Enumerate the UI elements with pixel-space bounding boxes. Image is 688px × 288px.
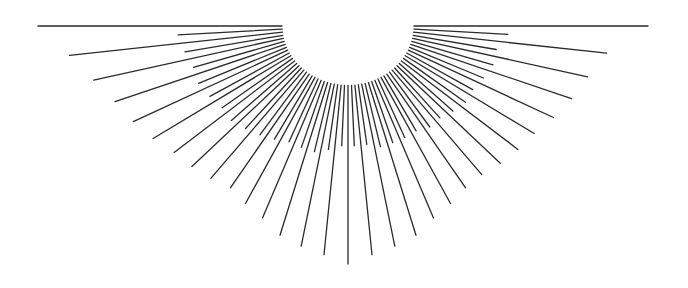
sunburst-ray	[387, 74, 466, 188]
sunburst-ray	[192, 66, 299, 167]
sunburst-ray	[246, 77, 316, 203]
sunburst-ray	[355, 85, 372, 255]
sunburst-ray	[230, 74, 309, 188]
sunburst-ray	[405, 56, 534, 134]
sunburst-ray	[342, 85, 345, 146]
sunburst-ray	[324, 85, 341, 255]
sunburst-ray	[352, 85, 355, 146]
sunburst-ray	[397, 66, 500, 164]
sunburst-rays	[38, 26, 648, 264]
sunburst-ray	[133, 50, 287, 121]
sunburst-ray	[115, 44, 285, 101]
sunburst-ray	[301, 84, 334, 246]
sunburst-ray	[70, 32, 283, 55]
sunburst-ray	[153, 56, 291, 139]
sunburst-ray	[411, 44, 572, 98]
sunburst-ray	[362, 84, 395, 246]
sunburst-ray	[222, 58, 292, 107]
sunburst-graphic	[0, 0, 688, 288]
sunburst-ray	[94, 38, 284, 80]
sunburst-ray	[328, 85, 337, 150]
sunburst-ray	[372, 82, 393, 143]
